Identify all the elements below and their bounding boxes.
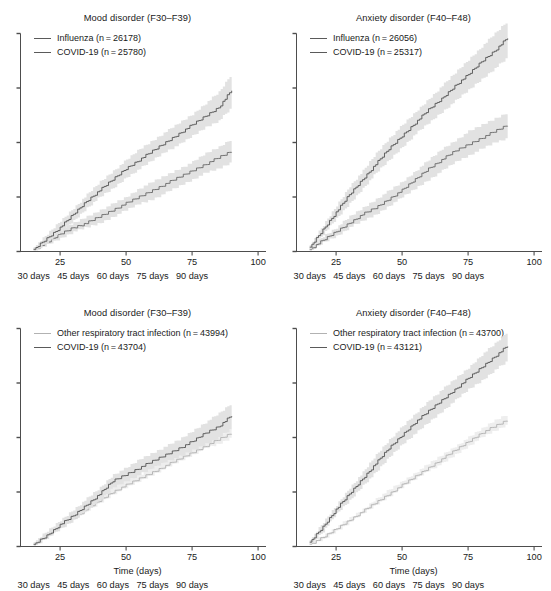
x-axis-day-label: 60 days <box>373 580 405 590</box>
panel-top-right: Anxiety disorder (F40–F48) Influenza (n … <box>276 0 551 296</box>
x-axis-tick-labels: 255075100 <box>276 257 551 269</box>
x-axis-tick-label: 100 <box>250 257 265 267</box>
x-axis-day-labels: 30 days45 days60 days75 days90 days <box>276 580 551 591</box>
x-axis-tick-labels: 255075100 <box>0 552 275 564</box>
x-axis-day-label: 45 days <box>333 580 365 590</box>
x-axis-tick-label: 75 <box>187 552 197 562</box>
x-axis-tick-labels: 255075100 <box>276 552 551 564</box>
x-axis-tick-label: 75 <box>187 257 197 267</box>
x-axis-day-labels: 30 days45 days60 days75 days90 days <box>0 271 275 283</box>
x-axis-tick-label: 100 <box>526 257 541 267</box>
x-axis-day-label: 60 days <box>373 271 405 281</box>
x-axis-day-label: 90 days <box>452 580 484 590</box>
x-axis-day-label: 60 days <box>97 580 129 590</box>
x-axis-tick-label: 25 <box>55 257 65 267</box>
x-axis-tick-label: 50 <box>121 552 131 562</box>
x-axis-tick-label: 50 <box>397 552 407 562</box>
x-axis-day-label: 90 days <box>176 271 208 281</box>
x-axis-day-label: 75 days <box>412 580 444 590</box>
x-axis-tick-label: 100 <box>526 552 541 562</box>
plot-area <box>276 0 551 296</box>
x-axis-title: Time (days) <box>0 566 275 576</box>
x-axis-day-label: 45 days <box>57 580 89 590</box>
x-axis-day-label: 45 days <box>57 271 89 281</box>
x-axis-title: Time (days) <box>276 566 551 576</box>
plot-area <box>0 0 275 296</box>
x-axis-day-label: 30 days <box>294 271 326 281</box>
x-axis-day-label: 75 days <box>412 271 444 281</box>
x-axis-day-label: 90 days <box>452 271 484 281</box>
x-axis-day-label: 30 days <box>18 580 50 590</box>
x-axis-day-label: 75 days <box>136 580 168 590</box>
x-axis-day-labels: 30 days45 days60 days75 days90 days <box>276 271 551 283</box>
panel-bottom-left: Mood disorder (F30–F39) Other respirator… <box>0 295 275 591</box>
x-axis-tick-label: 75 <box>463 552 473 562</box>
x-axis-tick-label: 75 <box>463 257 473 267</box>
plot-area <box>0 295 275 591</box>
x-axis-tick-label: 50 <box>121 257 131 267</box>
x-axis-day-label: 90 days <box>176 580 208 590</box>
panel-bottom-right: Anxiety disorder (F40–F48) Other respira… <box>276 295 551 591</box>
x-axis-day-label: 45 days <box>333 271 365 281</box>
x-axis-day-label: 30 days <box>18 271 50 281</box>
x-axis-tick-label: 50 <box>397 257 407 267</box>
x-axis-tick-label: 25 <box>55 552 65 562</box>
x-axis-tick-label: 25 <box>331 257 341 267</box>
plot-area <box>276 295 551 591</box>
x-axis-day-labels: 30 days45 days60 days75 days90 days <box>0 580 275 591</box>
x-axis-tick-label: 25 <box>331 552 341 562</box>
x-axis-tick-label: 100 <box>250 552 265 562</box>
x-axis-tick-labels: 255075100 <box>0 257 275 269</box>
x-axis-day-label: 60 days <box>97 271 129 281</box>
x-axis-day-label: 75 days <box>136 271 168 281</box>
confidence-band <box>34 402 232 547</box>
panel-top-left: Mood disorder (F30–F39) Influenza (n = 2… <box>0 0 275 296</box>
x-axis-day-label: 30 days <box>294 580 326 590</box>
figure-canvas: Mood disorder (F30–F39) Influenza (n = 2… <box>0 0 551 591</box>
